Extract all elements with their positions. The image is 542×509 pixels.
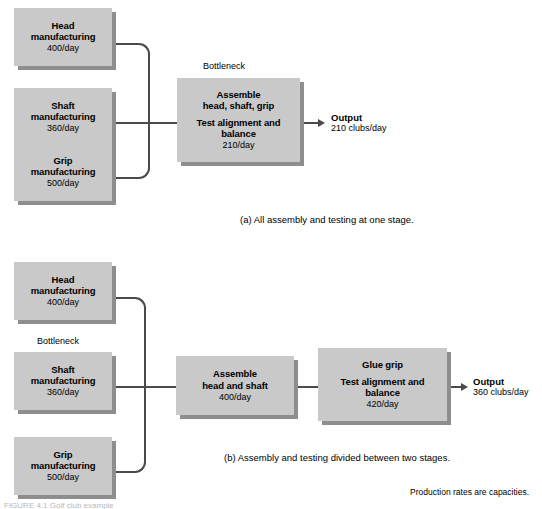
- box-title-line3: Test alignment and: [196, 117, 280, 128]
- box-head-manufacturing-b: Head manufacturing 400/day: [14, 262, 112, 320]
- connector-grip-elbow-b: [133, 459, 146, 473]
- box-head-manufacturing-a: Head manufacturing 400/day: [14, 8, 112, 66]
- figure-credit: FIGURE 4.1 Golf club example: [4, 501, 164, 509]
- output-value-b: 360 clubs/day: [473, 387, 529, 397]
- bottleneck-label-b: Bottleneck: [37, 336, 79, 346]
- box-title-line4: balance: [221, 128, 256, 139]
- connector-grip-b: [112, 471, 134, 473]
- box-rate: 360/day: [47, 123, 79, 134]
- box-rate: 500/day: [47, 178, 79, 189]
- box-assemble-test-a: Assemble head, shaft, grip Test alignmen…: [177, 78, 300, 162]
- box-title-line2: head, shaft, grip: [203, 100, 275, 111]
- box-title-line2: manufacturing: [31, 460, 96, 471]
- connector-head-b: [112, 297, 134, 299]
- box-rate: 400/day: [219, 392, 251, 403]
- connector-grip-a: [112, 177, 138, 179]
- box-title-line1: Assemble: [213, 368, 257, 379]
- connector-head-trunk-b: [144, 309, 146, 387]
- box-title-line1: Head: [52, 274, 75, 285]
- box-grip-manufacturing-a: Grip manufacturing 500/day: [14, 143, 112, 201]
- box-title-line3: balance: [365, 387, 400, 398]
- box-title-line1: Glue grip: [362, 359, 403, 370]
- box-title-line1: Shaft: [51, 364, 74, 375]
- figure-canvas: Head manufacturing 400/day Shaft manufac…: [0, 0, 542, 509]
- box-title-line1: Grip: [53, 449, 72, 460]
- connector-head-trunk-a: [148, 55, 150, 123]
- connector-shaft-a: [112, 122, 177, 124]
- caption-b: (b) Assembly and testing divided between…: [224, 452, 450, 463]
- connector-grip-elbow-a: [137, 165, 150, 179]
- box-rate: 500/day: [47, 472, 79, 483]
- connector-head-a: [112, 43, 138, 45]
- box-title-line2: manufacturing: [31, 31, 96, 42]
- connector-output-a: [300, 122, 320, 124]
- box-rate: 360/day: [47, 387, 79, 398]
- box-title-line2: manufacturing: [31, 375, 96, 386]
- caption-a: (a) All assembly and testing at one stag…: [240, 214, 414, 225]
- box-assemble-head-shaft-b: Assemble head and shaft 400/day: [176, 356, 294, 415]
- box-grip-manufacturing-b: Grip manufacturing 500/day: [14, 437, 112, 495]
- box-title-line1: Assemble: [216, 89, 260, 100]
- box-glue-grip-test-b: Glue grip Test alignment and balance 420…: [318, 348, 447, 421]
- output-title-a: Output: [331, 112, 362, 123]
- box-title-line1: Shaft: [51, 100, 74, 111]
- connector-grip-trunk-a: [148, 122, 150, 167]
- box-shaft-manufacturing-b: Shaft manufacturing 360/day: [14, 352, 112, 410]
- box-title-line2: manufacturing: [31, 285, 96, 296]
- box-rate: 210/day: [222, 140, 254, 151]
- arrowhead-output-a: [318, 119, 325, 127]
- box-title-line1: Head: [52, 20, 75, 31]
- box-title-line2: head and shaft: [202, 380, 268, 391]
- output-value-a: 210 clubs/day: [331, 123, 387, 133]
- box-shaft-manufacturing-a: Shaft manufacturing 360/day: [14, 88, 112, 146]
- box-rate: 400/day: [47, 297, 79, 308]
- box-title-line2: manufacturing: [31, 166, 96, 177]
- box-title-line2: Test alignment and: [340, 376, 424, 387]
- box-rate: 420/day: [366, 399, 398, 410]
- arrowhead-output-b: [461, 383, 468, 391]
- bottleneck-label-a: Bottleneck: [203, 61, 245, 71]
- connector-grip-trunk-b: [144, 386, 146, 461]
- output-title-b: Output: [473, 376, 504, 387]
- connector-stage1-stage2-b: [294, 386, 318, 388]
- box-title-line2: manufacturing: [31, 111, 96, 122]
- box-title-line1: Grip: [53, 155, 72, 166]
- figure-footnote: Production rates are capacities.: [410, 487, 529, 497]
- box-rate: 400/day: [47, 43, 79, 54]
